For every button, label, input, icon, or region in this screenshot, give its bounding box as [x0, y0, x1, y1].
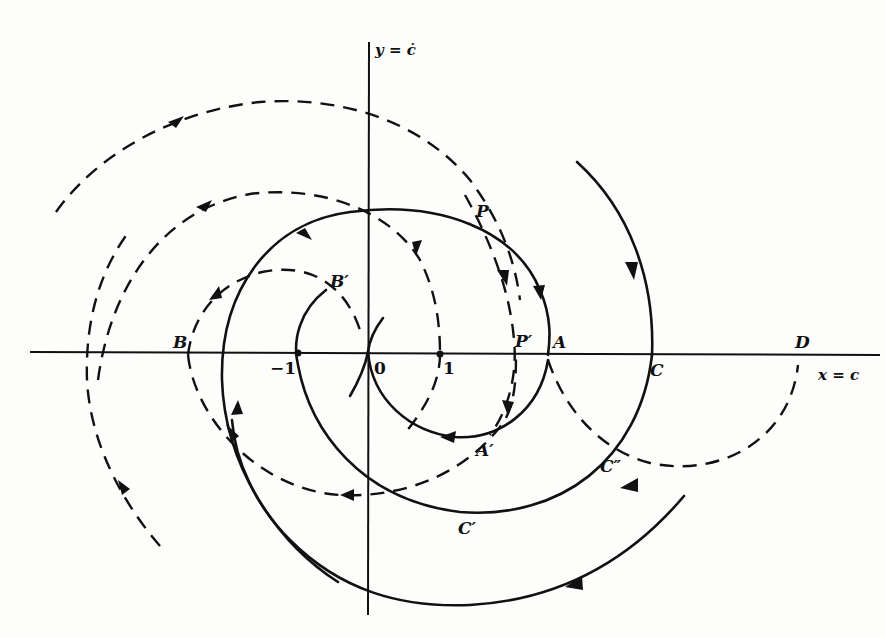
arrow-icon — [340, 489, 354, 501]
arrow-icon — [296, 228, 312, 240]
x-axis-label: x = c — [817, 366, 859, 384]
tick-label-one: 1 — [443, 358, 455, 378]
arrow-icon — [440, 431, 456, 443]
solid-curve-Bprime-Cprime-C — [296, 290, 652, 513]
dashed-curve-A-Cdoubleprime-D — [548, 360, 798, 466]
label-C: C — [650, 360, 664, 380]
label-B: B — [172, 332, 187, 352]
label-C-prime: C′ — [458, 518, 477, 538]
dashed-curve-P-Pprime-Aprime — [465, 195, 515, 435]
solid-curve-origin-lower — [350, 352, 368, 396]
y-axis-label: y = ċ — [374, 41, 416, 59]
arrow-icon — [620, 478, 638, 492]
label-A-prime: A′ — [474, 440, 494, 460]
label-P: P — [475, 201, 490, 221]
solid-curve-C-upper — [577, 162, 652, 355]
phase-plane-diagram: y = ċ x = c −1 0 1 P — [0, 0, 885, 637]
tick-label-zero: 0 — [374, 358, 386, 378]
arrow-icon — [168, 116, 184, 128]
arrow-icon — [209, 286, 222, 300]
arrow-icon — [502, 400, 514, 416]
label-P-prime: P′ — [514, 331, 533, 351]
label-D: D — [794, 332, 810, 352]
label-A: A — [551, 332, 566, 352]
solid-curve-origin-upper — [368, 318, 383, 352]
solid-curve-0-to-Aprime — [368, 352, 548, 437]
y-axis — [368, 42, 369, 615]
solid-curve-loop-through-P-A — [222, 209, 550, 582]
label-B-prime: B′ — [329, 271, 349, 291]
tick-label-minus-one: −1 — [270, 358, 296, 378]
arrow-icon — [625, 262, 638, 280]
dashed-curve-B-lower — [188, 355, 516, 495]
x-axis — [30, 352, 880, 355]
label-C-double-prime: C″ — [600, 456, 622, 476]
arrow-icon — [231, 400, 243, 415]
dashed-curve-outer-left — [87, 230, 160, 546]
